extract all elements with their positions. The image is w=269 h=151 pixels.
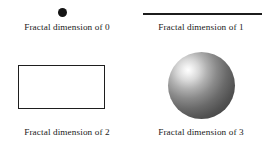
panel-dimension-3: Fractal dimension of 3 (134, 76, 268, 151)
caption-dimension-1: Fractal dimension of 1 (134, 22, 268, 33)
caption-dimension-0: Fractal dimension of 0 (0, 22, 134, 33)
panel-dimension-0: Fractal dimension of 0 (0, 0, 134, 75)
panel-dimension-2: Fractal dimension of 2 (0, 76, 134, 151)
caption-dimension-2: Fractal dimension of 2 (0, 127, 134, 138)
caption-dimension-3: Fractal dimension of 3 (134, 127, 268, 138)
shaded-sphere-icon (168, 52, 235, 119)
filled-circle-icon (58, 8, 67, 17)
horizontal-line-icon (143, 13, 262, 15)
fractal-dimension-figure: Fractal dimension of 0 Fractal dimension… (0, 0, 269, 151)
rectangle-outline-icon (18, 65, 105, 109)
